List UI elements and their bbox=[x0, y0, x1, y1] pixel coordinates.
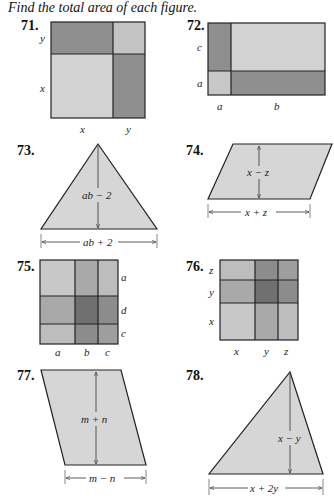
figure-77: m + n m − n bbox=[41, 370, 146, 484]
label-75-b-bottom: b bbox=[84, 346, 90, 358]
label-76-x-bottom: x bbox=[233, 345, 239, 357]
label-75-c-bottom: c bbox=[105, 346, 110, 358]
label-74-base: x + z bbox=[244, 206, 268, 218]
label-71-y-side: y bbox=[39, 32, 45, 44]
label-75-a-bottom: a bbox=[55, 346, 61, 358]
label-71-x-side: x bbox=[39, 82, 45, 94]
label-75-c-side: c bbox=[121, 327, 126, 339]
label-72-b-bottom: b bbox=[274, 100, 280, 112]
figure-74: x − z x + z bbox=[208, 144, 332, 218]
label-76-y-bottom: y bbox=[263, 345, 269, 357]
label-76-z-side: z bbox=[208, 264, 214, 276]
label-73-base: ab + 2 bbox=[83, 236, 113, 248]
label-77-height: m + n bbox=[81, 413, 108, 425]
figure-71: y x x y bbox=[39, 22, 145, 135]
label-77-base: m − n bbox=[89, 472, 116, 484]
label-75-d-side: d bbox=[121, 304, 127, 316]
figure-73: ab − 2 ab + 2 bbox=[41, 144, 157, 248]
figure-78: x − y x + 2y bbox=[209, 372, 323, 495]
label-72-c-side: c bbox=[197, 41, 202, 53]
label-72-a-side: a bbox=[197, 77, 203, 89]
label-74-height: x − z bbox=[246, 166, 270, 178]
label-78-height: x − y bbox=[277, 432, 301, 444]
label-73-height: ab − 2 bbox=[82, 189, 112, 201]
label-71-y-bottom: y bbox=[125, 123, 131, 135]
label-76-x-side: x bbox=[208, 315, 214, 327]
figure-75: a d c a b c bbox=[40, 260, 127, 358]
figure-76: z y x x y z bbox=[208, 260, 298, 357]
label-78-base: x + 2y bbox=[249, 482, 278, 494]
label-76-z-bottom: z bbox=[283, 345, 289, 357]
label-72-a-bottom: a bbox=[217, 100, 223, 112]
label-76-y-side: y bbox=[208, 286, 214, 298]
figure-72: c a a b bbox=[197, 23, 325, 112]
label-75-a-side: a bbox=[121, 271, 127, 283]
figures-canvas: y x x y c a a b ab − 2 ab + 2 x − z bbox=[0, 0, 334, 504]
label-71-x-bottom: x bbox=[79, 123, 85, 135]
